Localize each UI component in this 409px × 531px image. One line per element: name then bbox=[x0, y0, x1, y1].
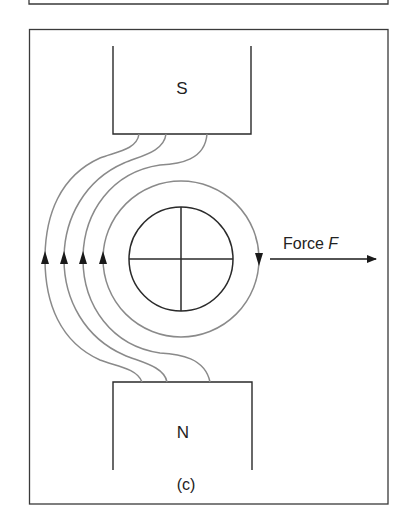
up-arrow-icon bbox=[60, 251, 68, 264]
field-lines bbox=[45, 134, 259, 382]
field-line-1 bbox=[45, 134, 142, 382]
up-arrow-icon bbox=[79, 251, 87, 264]
force-label: Force F bbox=[283, 235, 339, 252]
figure-caption: (c) bbox=[177, 476, 196, 493]
north-pole-label: N bbox=[177, 423, 189, 442]
force-label-text: Force bbox=[283, 235, 328, 252]
up-arrow-icon bbox=[99, 251, 107, 264]
down-arrow-icon bbox=[255, 253, 263, 266]
conductor bbox=[129, 207, 233, 311]
force-symbol: F bbox=[328, 235, 339, 252]
south-pole-label: S bbox=[176, 79, 187, 98]
previous-panel-frame bbox=[29, 0, 388, 4]
magnetic-field-diagram: S N Force F (c) bbox=[0, 0, 409, 531]
up-arrow-icon bbox=[41, 251, 49, 264]
